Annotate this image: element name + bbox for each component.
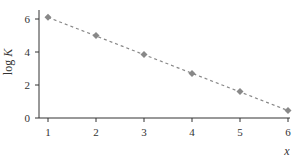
data-point-diamond <box>141 51 148 58</box>
data-point-diamond <box>189 70 196 77</box>
x-tick-label: 3 <box>141 126 147 138</box>
y-axis-label: log K <box>1 48 15 75</box>
y-tick-label: 4 <box>25 46 31 58</box>
x-axis: 123456 <box>39 118 291 138</box>
svg-text:log K: log K <box>1 48 15 75</box>
x-axis-label: x <box>283 144 290 158</box>
y-tick-label: 0 <box>25 112 31 124</box>
data-point-diamond <box>237 88 244 95</box>
x-tick-label: 2 <box>93 126 99 138</box>
x-tick-label: 6 <box>285 126 291 138</box>
y-tick-label: 6 <box>25 13 31 25</box>
y-axis: 0246 <box>25 10 40 124</box>
data-point-diamond <box>45 14 52 21</box>
chart: 0246 123456 log K x <box>0 0 294 160</box>
data-point-diamond <box>285 107 292 114</box>
trendline <box>48 17 288 110</box>
x-tick-label: 4 <box>189 126 195 138</box>
x-tick-label: 5 <box>237 126 243 138</box>
data-point-diamond <box>93 32 100 39</box>
y-tick-label: 2 <box>25 79 31 91</box>
x-tick-label: 1 <box>45 126 51 138</box>
